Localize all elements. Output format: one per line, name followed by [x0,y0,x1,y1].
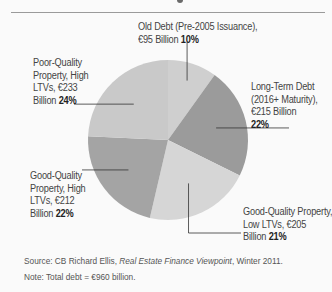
label-good-low-line1: Good-Quality Property, [243,206,332,219]
label-old-debt: Old Debt (Pre-2005 Issuance), €95 Billio… [138,21,257,46]
label-old-debt-pct: 10% [181,34,199,45]
label-old-debt-line2: €95 Billion [138,34,178,45]
label-good-high-line1: Good-Quality [30,170,86,183]
label-old-debt-line1: Old Debt (Pre-2005 Issuance), [138,21,257,34]
label-good-low-pct: 21% [269,231,287,242]
label-poor-high-line1: Poor-Quality [33,57,89,70]
label-good-low-line2: Low LTVs, €205 [243,219,332,232]
label-poor-high-pct: 24% [59,95,77,106]
label-good-high-line2: Property, High [30,183,86,196]
label-good-low: Good-Quality Property, Low LTVs, €205 Bi… [243,206,332,244]
source-prefix: Source: CB Richard Ellis, [24,256,119,266]
label-good-low-line3: Billion [243,231,266,242]
label-poor-high-line4: Billion [33,95,56,106]
label-good-high: Good-Quality Property, High LTVs, €212 B… [30,170,86,220]
source-note: Source: CB Richard Ellis, Real Estate Fi… [24,256,283,266]
label-good-high-line4: Billion [30,208,53,219]
label-poor-high-line3: LTVs, €233 [33,82,89,95]
total-note: Note: Total debt = €960 billion. [24,272,135,282]
label-good-high-pct: 22% [56,208,74,219]
source-suffix: , Winter 2011. [232,256,283,266]
label-long-term: Long-Term Debt (2016+ Maturity), €215 Bi… [251,81,318,131]
label-poor-high-line2: Property, High [33,70,89,83]
slice-poor-high [88,60,168,140]
label-good-high-line3: LTVs, €212 [30,195,86,208]
label-long-term-pct: 22% [251,119,269,130]
label-long-term-line1: Long-Term Debt [251,81,318,94]
label-long-term-line3: €215 Billion [251,106,318,119]
label-long-term-line2: (2016+ Maturity), [251,94,318,107]
label-poor-high: Poor-Quality Property, High LTVs, €233 B… [33,57,89,107]
source-publication: Real Estate Finance Viewpoint [119,256,232,266]
